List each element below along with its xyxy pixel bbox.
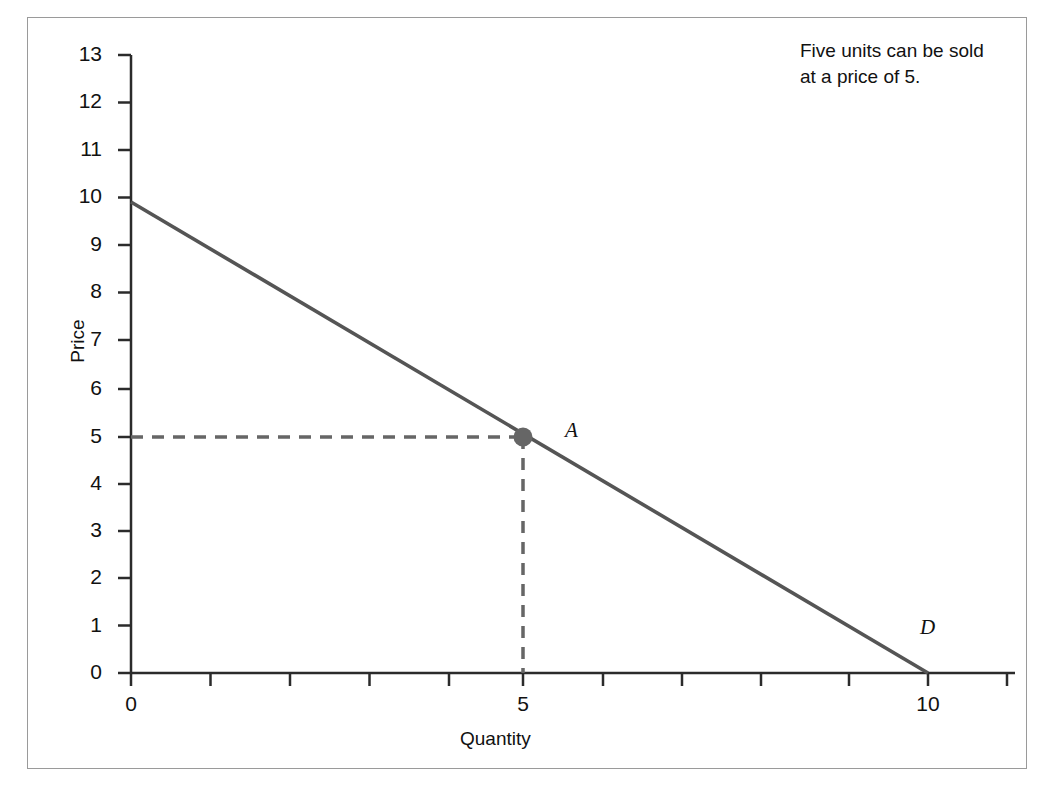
y-tick-label-13: 13 [62, 42, 102, 66]
y-tick-marks [118, 55, 131, 673]
x-tick-label-10: 10 [908, 692, 948, 716]
y-tick-label-12: 12 [62, 89, 102, 113]
y-axis-title: Price [67, 281, 89, 401]
y-tick-label-5: 5 [62, 424, 102, 448]
demand-curve-figure: 13 12 11 10 9 8 7 6 5 4 3 2 1 0 0 5 10 P… [0, 0, 1050, 796]
y-tick-label-11: 11 [62, 137, 102, 161]
y-tick-label-9: 9 [62, 232, 102, 256]
y-tick-label-2: 2 [62, 565, 102, 589]
x-tick-label-5: 5 [503, 692, 543, 716]
demand-curve-label: D [920, 615, 935, 640]
x-tick-label-0: 0 [111, 692, 151, 716]
point-a-marker [514, 428, 533, 447]
y-axis-title-wrap: Price [20, 330, 50, 450]
y-tick-label-4: 4 [62, 471, 102, 495]
y-tick-label-10: 10 [62, 184, 102, 208]
y-tick-label-0: 0 [62, 660, 102, 684]
y-tick-label-3: 3 [62, 518, 102, 542]
x-tick-marks [131, 673, 1007, 686]
x-axis-title: Quantity [460, 728, 531, 750]
five-units-annotation: Five units can be sold at a price of 5. [800, 38, 1015, 90]
y-tick-label-1: 1 [62, 613, 102, 637]
point-a-label: A [565, 418, 578, 443]
demand-curve-plot [0, 0, 1050, 796]
